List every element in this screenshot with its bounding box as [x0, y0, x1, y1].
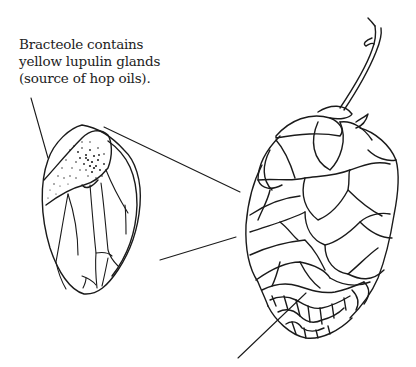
cone-base-pointer: [238, 293, 306, 358]
bracteole: [42, 125, 140, 294]
hop-cone: [246, 18, 398, 338]
zoom-line-upper: [104, 127, 240, 192]
lupulin-stipple: [47, 141, 106, 198]
hop-diagram: Bracteole contains yellow lupulin glands…: [0, 0, 416, 367]
zoom-line-lower: [160, 237, 236, 260]
illustration: [0, 0, 416, 367]
label-leader-line: [31, 98, 48, 158]
